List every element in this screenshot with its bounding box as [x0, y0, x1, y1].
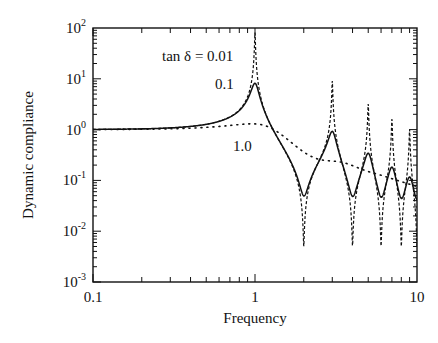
series-line-dotted: [93, 124, 417, 187]
annotation-tan-delta-01: 0.1: [215, 76, 234, 92]
y-axis-tick-labels: 10210110010-110-210-3: [63, 17, 86, 290]
x-axis-tick-labels: 0.1110: [84, 289, 425, 305]
x-tick-label: 1: [251, 289, 259, 305]
y-tick-label: 10-1: [63, 169, 86, 188]
annotation-tan-delta-001: tan δ = 0.01: [162, 48, 233, 64]
y-tick-label: 10-3: [63, 271, 86, 290]
series-line-solid: [93, 83, 417, 199]
x-axis-title: Frequency: [223, 310, 287, 326]
annotation-tan-delta-10: 1.0: [233, 138, 252, 154]
y-tick-label: 101: [66, 68, 86, 87]
dynamic-compliance-chart: 10210110010-110-210-3 0.1110 Frequency D…: [0, 0, 438, 343]
x-tick-label: 10: [410, 289, 425, 305]
x-tick-label: 0.1: [84, 289, 103, 305]
y-tick-label: 102: [66, 17, 86, 36]
y-tick-label: 100: [66, 119, 86, 138]
axis-ticks: [93, 28, 417, 282]
y-tick-label: 10-2: [63, 220, 86, 239]
series-line-dashed: [93, 33, 417, 247]
y-axis-title: Dynamic compliance: [20, 91, 36, 219]
plot-frame: [93, 28, 417, 282]
data-series: [93, 33, 417, 247]
